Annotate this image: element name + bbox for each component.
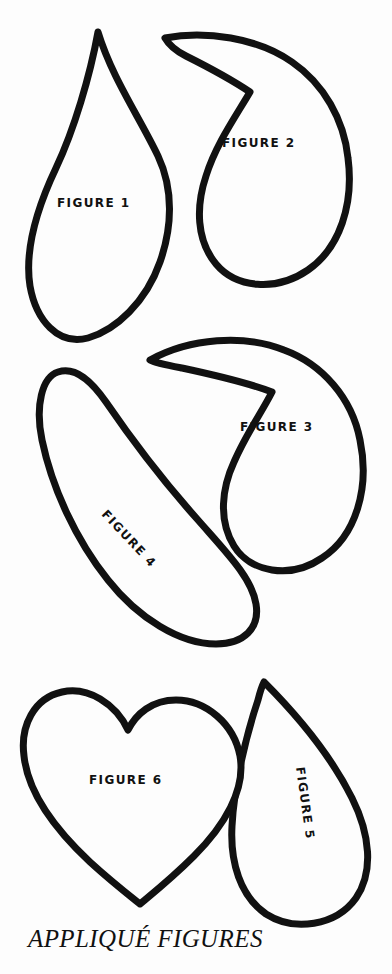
pattern-outlines: [0, 0, 392, 974]
figure-2-label: FIGURE 2: [222, 136, 295, 150]
figure-6-label: FIGURE 6: [89, 773, 162, 787]
pattern-sheet: FIGURE 1 FIGURE 2 FIGURE 3 FIGURE 4 FIGU…: [0, 0, 392, 974]
sheet-caption: APPLIQUÉ FIGURES: [28, 925, 263, 953]
figure-2-outline[interactable]: [165, 35, 349, 284]
figure-3-label: FIGURE 3: [240, 420, 313, 434]
figure-6-outline[interactable]: [23, 691, 241, 904]
figure-1-label: FIGURE 1: [57, 196, 130, 210]
figure-1-outline[interactable]: [29, 32, 170, 339]
